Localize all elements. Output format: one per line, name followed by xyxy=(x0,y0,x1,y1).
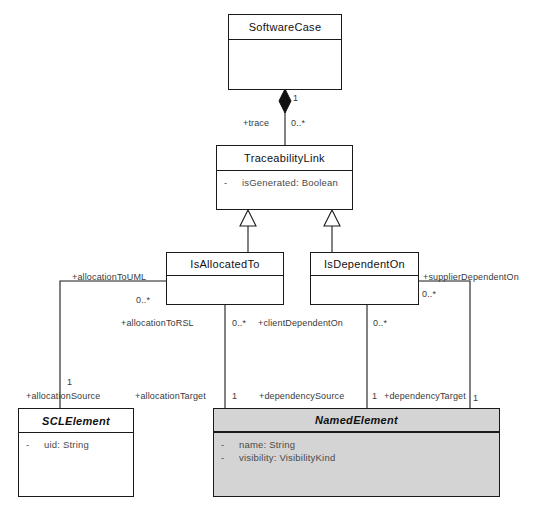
class-name-namedelement: NamedElement xyxy=(214,409,499,433)
class-box-namedelement[interactable]: NamedElement -name: String -visibility: … xyxy=(213,408,500,497)
attribute-visibility: - xyxy=(26,438,44,451)
class-box-traceabilitylink[interactable]: TraceabilityLink -isGenerated: Boolean xyxy=(216,145,353,210)
class-attributes-isallocatedto xyxy=(167,276,283,281)
label-dependency-source-role: +dependencySource xyxy=(259,391,344,401)
attribute-text: name: String xyxy=(239,439,295,450)
label-allocation-source-multiplicity: 1 xyxy=(67,377,72,387)
class-name-isallocatedto: IsAllocatedTo xyxy=(167,253,283,276)
attribute-row: -visibility: VisibilityKind xyxy=(214,451,499,464)
attribute-text: uid: String xyxy=(44,439,89,450)
class-name-softwarecase: SoftwareCase xyxy=(229,15,341,40)
attribute-visibility: - xyxy=(224,176,242,189)
class-box-isallocatedto[interactable]: IsAllocatedTo xyxy=(166,252,284,305)
class-attributes-softwarecase xyxy=(229,40,341,45)
attribute-text: visibility: VisibilityKind xyxy=(239,452,335,463)
class-name-isdependenton: IsDependentOn xyxy=(311,253,418,276)
class-attributes-traceabilitylink: -isGenerated: Boolean xyxy=(217,171,352,189)
label-dependency-source-multiplicity: 1 xyxy=(372,391,377,401)
generalization-triangle-icon-isallocatedto xyxy=(240,210,256,226)
label-trace-multiplicity-one: 1 xyxy=(293,93,298,103)
label-allocation-target-multiplicity: 1 xyxy=(232,391,237,401)
attribute-row: -uid: String xyxy=(19,438,133,451)
label-supplier-dependent-on-multiplicity: 0..* xyxy=(422,289,436,299)
label-allocation-target-role: +allocationTarget xyxy=(135,391,206,401)
label-allocation-to-uml-role: +allocationToUML xyxy=(72,272,146,282)
label-supplier-dependent-on-role: +supplierDependentOn xyxy=(423,272,519,282)
composition-diamond-icon xyxy=(279,89,291,113)
attribute-text: isGenerated: Boolean xyxy=(242,177,338,188)
class-attributes-namedelement: -name: String -visibility: VisibilityKin… xyxy=(214,433,499,464)
label-client-dependent-on-role: +clientDependentOn xyxy=(258,318,343,328)
attribute-visibility: - xyxy=(221,451,239,464)
class-name-sclelement: SCLElement xyxy=(19,409,133,433)
attribute-row: -isGenerated: Boolean xyxy=(217,176,352,189)
attribute-row: -name: String xyxy=(214,438,499,451)
class-box-sclelement[interactable]: SCLElement -uid: String xyxy=(18,408,134,497)
uml-class-diagram-canvas: SoftwareCase TraceabilityLink -isGenerat… xyxy=(0,0,544,521)
label-allocation-to-rsl-role: +allocationToRSL xyxy=(121,318,194,328)
label-trace-multiplicity-many: 0..* xyxy=(291,118,305,128)
label-allocation-to-rsl-multiplicity: 0..* xyxy=(232,318,246,328)
label-trace-role: +trace xyxy=(243,118,269,128)
label-dependency-target-multiplicity: 1 xyxy=(473,393,478,403)
label-client-dependent-on-multiplicity: 0..* xyxy=(373,318,387,328)
class-box-isdependenton[interactable]: IsDependentOn xyxy=(310,252,419,305)
class-attributes-isdependenton xyxy=(311,276,418,281)
association-line-supplierdependenton xyxy=(419,281,470,408)
class-name-traceabilitylink: TraceabilityLink xyxy=(217,146,352,171)
class-box-softwarecase[interactable]: SoftwareCase xyxy=(228,14,342,90)
generalization-triangle-icon-isdependenton xyxy=(324,210,340,226)
label-allocation-to-uml-multiplicity: 0..* xyxy=(136,295,150,305)
class-attributes-sclelement: -uid: String xyxy=(19,433,133,451)
label-allocation-source-role: +allocationSource xyxy=(26,391,100,401)
attribute-visibility: - xyxy=(221,438,239,451)
label-dependency-target-role: +dependencyTarget xyxy=(384,391,466,401)
